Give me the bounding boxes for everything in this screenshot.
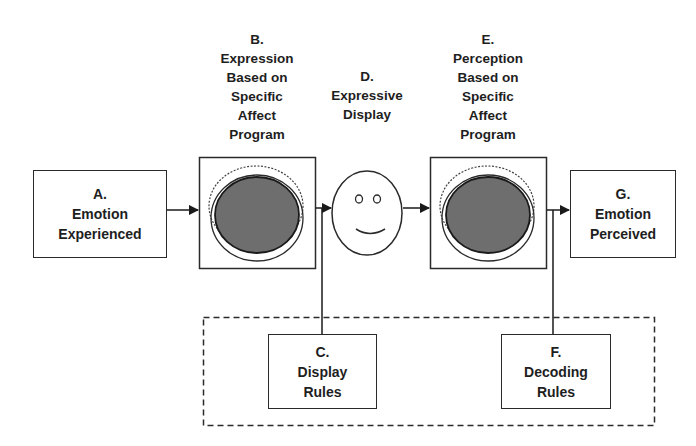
node-e-line-1: Perception <box>418 49 558 68</box>
node-f-decoding-rules: F. Decoding Rules <box>501 334 611 409</box>
node-d-letter: D. <box>322 67 412 86</box>
node-b-line-4: Affect <box>187 106 327 125</box>
node-c-line-2: Rules <box>303 382 341 402</box>
node-g-letter: G. <box>616 184 631 204</box>
node-e-line-2: Based on <box>418 68 558 87</box>
node-e-letter: E. <box>418 30 558 49</box>
node-g-line-1: Emotion <box>595 204 651 224</box>
node-d-line-1: Expressive <box>322 86 412 105</box>
node-b-line-2: Based on <box>187 68 327 87</box>
node-f-letter: F. <box>551 342 562 362</box>
node-f-line-2: Rules <box>537 382 575 402</box>
node-c-line-1: Display <box>298 362 348 382</box>
node-c-display-rules: C. Display Rules <box>268 334 377 409</box>
node-b-line-3: Specific <box>187 87 327 106</box>
node-e-line-3: Specific <box>418 87 558 106</box>
node-b-line-1: Expression <box>187 49 327 68</box>
node-a-line-1: Emotion <box>72 204 128 224</box>
node-d-line-2: Display <box>322 105 412 124</box>
node-e-line-5: Program <box>418 125 558 144</box>
node-b-letter: B. <box>187 30 327 49</box>
node-b-label: B. Expression Based on Specific Affect P… <box>187 30 327 144</box>
node-a-line-2: Experienced <box>58 224 141 244</box>
node-d-label: D. Expressive Display <box>322 67 412 124</box>
node-a-letter: A. <box>93 184 107 204</box>
node-c-letter: C. <box>316 342 330 362</box>
node-b-line-5: Program <box>187 125 327 144</box>
node-a-emotion-experienced: A. Emotion Experienced <box>33 170 167 258</box>
node-f-line-1: Decoding <box>524 362 588 382</box>
smiley-face-icon <box>332 171 402 255</box>
node-e-label: E. Perception Based on Specific Affect P… <box>418 30 558 144</box>
node-g-emotion-perceived: G. Emotion Perceived <box>570 170 676 258</box>
node-e-line-4: Affect <box>418 106 558 125</box>
node-g-line-2: Perceived <box>590 224 656 244</box>
